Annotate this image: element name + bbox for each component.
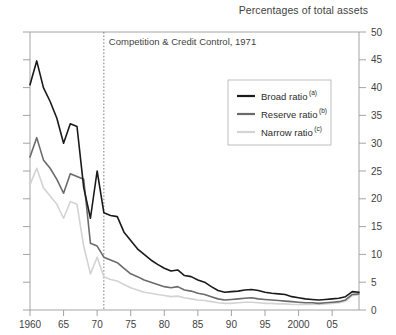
y-tick-label: 35 bbox=[371, 110, 383, 121]
legend-label-narrow-ratio: Narrow ratio bbox=[261, 127, 313, 138]
chart-plot-area: 0510152025303540455019606570758085909520… bbox=[0, 0, 396, 335]
x-tick-label: 2000 bbox=[287, 319, 310, 330]
axes-group: 0510152025303540455019606570758085909520… bbox=[19, 27, 383, 331]
event-annotation-label: Competition & Credit Control, 1971 bbox=[109, 36, 256, 47]
x-tick-label: 65 bbox=[58, 319, 70, 330]
y-tick-label: 10 bbox=[371, 249, 383, 260]
y-tick-label: 30 bbox=[371, 138, 383, 149]
y-tick-label: 5 bbox=[371, 277, 377, 288]
legend-label-broad-ratio: Broad ratio bbox=[261, 91, 307, 102]
y-tick-label: 0 bbox=[371, 305, 377, 316]
x-tick-label: 05 bbox=[327, 319, 339, 330]
x-tick-label: 70 bbox=[92, 319, 104, 330]
series-line-narrow-ratio bbox=[30, 168, 359, 304]
event-annotation-group: Competition & Credit Control, 1971 bbox=[104, 32, 256, 310]
x-tick-label: 80 bbox=[159, 319, 171, 330]
y-tick-label: 25 bbox=[371, 166, 383, 177]
legend-note-narrow-ratio: (c) bbox=[314, 125, 322, 133]
plot-frame bbox=[30, 32, 359, 310]
legend-label-reserve-ratio: Reserve ratio bbox=[261, 109, 318, 120]
x-tick-label: 85 bbox=[192, 319, 204, 330]
y-tick-label: 15 bbox=[371, 221, 383, 232]
x-tick-label: 1960 bbox=[19, 319, 42, 330]
x-tick-label: 90 bbox=[226, 319, 238, 330]
x-tick-label: 75 bbox=[125, 319, 137, 330]
legend-note-reserve-ratio: (b) bbox=[319, 107, 327, 115]
y-tick-label: 45 bbox=[371, 54, 383, 65]
chart-container: Percentages of total assets 051015202530… bbox=[0, 0, 396, 335]
y-tick-label: 40 bbox=[371, 82, 383, 93]
x-tick-label: 95 bbox=[259, 319, 271, 330]
chart-legend: Broad ratio(a)Reserve ratio(b)Narrow rat… bbox=[228, 80, 331, 145]
y-tick-label: 50 bbox=[371, 27, 383, 38]
y-tick-label: 20 bbox=[371, 193, 383, 204]
legend-note-broad-ratio: (a) bbox=[309, 89, 317, 97]
